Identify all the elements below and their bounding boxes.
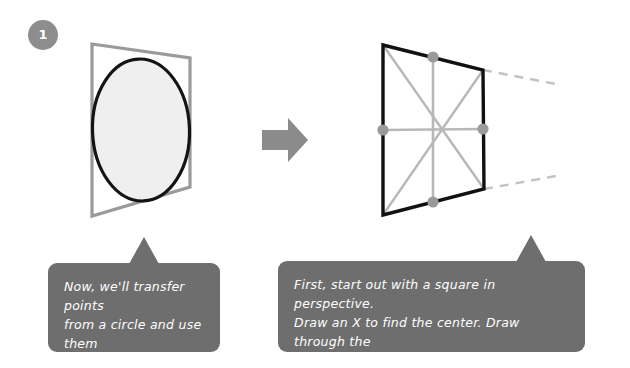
bubble-pointer-right: [516, 235, 546, 262]
circle-in-square-figure: [90, 44, 192, 216]
speech-bubble-right-text: First, start out with a square in perspe…: [294, 275, 569, 368]
vanishing-guide-top: [483, 70, 556, 84]
speech-bubble-left: Now, we'll transfer points from a circle…: [48, 263, 220, 352]
vanishing-guide-bottom: [484, 176, 556, 189]
inscribed-ellipse: [90, 57, 192, 202]
tutorial-panel: 1: [0, 0, 630, 368]
horizontal-midline: [383, 129, 483, 130]
midpoint-dot-right: [477, 123, 488, 134]
midpoint-dot-top: [427, 51, 438, 62]
speech-bubble-right: First, start out with a square in perspe…: [278, 261, 585, 352]
right-arrow-icon: [262, 118, 308, 162]
midpoint-dot-left: [377, 124, 388, 135]
midpoint-dot-bottom: [427, 196, 438, 207]
bubble-pointer-left: [129, 237, 159, 264]
speech-bubble-left-text: Now, we'll transfer points from a circle…: [64, 277, 204, 368]
figure-stage: [0, 0, 630, 232]
square-perspective-construction-figure: [377, 45, 556, 215]
